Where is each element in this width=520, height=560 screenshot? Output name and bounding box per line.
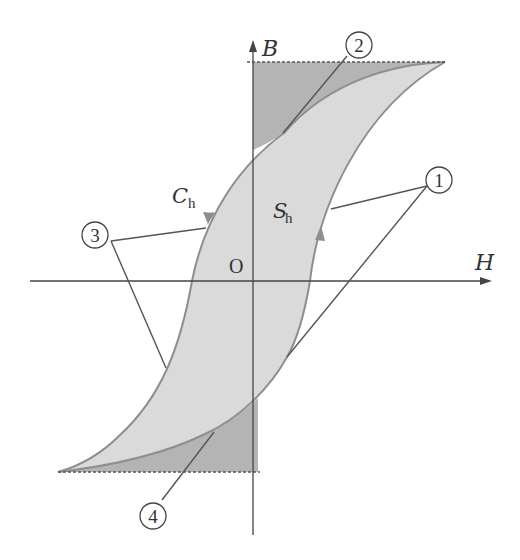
callout-4: 4 xyxy=(140,503,166,529)
h-axis-arrowhead-icon xyxy=(480,277,492,285)
coercive-label: C h xyxy=(172,184,196,211)
callout-2: 2 xyxy=(346,32,372,58)
b-axis-label: B xyxy=(261,36,278,61)
svg-text:4: 4 xyxy=(148,506,158,527)
hysteresis-diagram: B H O C h S h 1 2 3 4 xyxy=(0,0,520,560)
origin-label: O xyxy=(229,255,243,277)
callout-1-leader-a xyxy=(331,186,427,209)
svg-text:h: h xyxy=(188,195,196,211)
h-axis-label: H xyxy=(474,250,495,275)
svg-text:1: 1 xyxy=(434,170,444,191)
svg-text:3: 3 xyxy=(90,225,100,246)
callout-3: 3 xyxy=(82,222,108,248)
svg-text:2: 2 xyxy=(354,35,364,56)
svg-text:C: C xyxy=(172,184,188,208)
callout-3-leader-b xyxy=(111,241,166,368)
svg-text:h: h xyxy=(285,210,293,226)
callout-3-leader-a xyxy=(111,228,206,241)
callout-1: 1 xyxy=(426,167,452,193)
b-axis-arrowhead-icon xyxy=(249,40,257,52)
